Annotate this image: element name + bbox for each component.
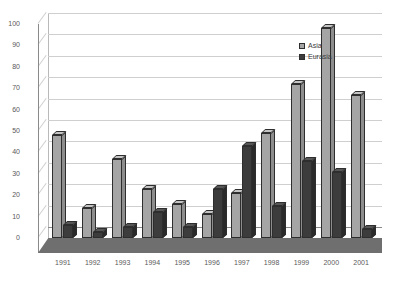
bar-side [312, 157, 316, 238]
bar-face [291, 84, 301, 238]
legend-swatch-eurasia-icon [299, 54, 305, 60]
bar-side [223, 185, 227, 238]
bar-group-1995 [172, 24, 193, 238]
bar-asia-1991 [52, 135, 62, 238]
bar-eurasia-1997 [242, 146, 252, 238]
x-axis-labels: 1991199219931994199519961997199819992000… [38, 258, 382, 272]
bar-eurasia-2001 [362, 229, 372, 238]
bar-face [202, 214, 212, 238]
y-tick-label-20: 20 [0, 191, 20, 198]
bar-eurasia-1995 [183, 227, 193, 238]
chart-floor-surface [38, 238, 382, 253]
x-tick-label-1993: 1993 [106, 258, 139, 267]
bar-asia-1993 [112, 159, 122, 238]
x-tick-label-1994: 1994 [136, 258, 169, 267]
bar-face [172, 204, 182, 238]
bar-eurasia-1994 [153, 212, 163, 238]
bar-asia-1997 [231, 193, 241, 238]
x-tick-label-1998: 1998 [255, 258, 288, 267]
bar-asia-1999 [291, 84, 301, 238]
y-tick-label-90: 90 [0, 41, 20, 48]
bar-face [231, 193, 241, 238]
bar-group-2001 [351, 24, 372, 238]
chart-floor [38, 238, 382, 253]
legend-label-eurasia: Eurasia [308, 51, 332, 62]
y-tick-label-80: 80 [0, 63, 20, 70]
bar-face [351, 95, 361, 238]
bar-group-1996 [202, 24, 223, 238]
bar-face [272, 206, 282, 238]
bar-eurasia-1998 [272, 206, 282, 238]
y-tick-label-40: 40 [0, 148, 20, 155]
bar-eurasia-1991 [63, 225, 73, 238]
bar-face [261, 133, 271, 238]
bar-face [142, 189, 152, 238]
bar-asia-1996 [202, 214, 212, 238]
bar-group-1991 [52, 24, 73, 238]
bar-face [123, 227, 133, 238]
bar-face [302, 161, 312, 238]
bar-chart: 0102030405060708090100 19911992199319941… [0, 0, 396, 282]
bar-asia-1994 [142, 189, 152, 238]
x-tick-label-1991: 1991 [46, 258, 79, 267]
bar-asia-2001 [351, 95, 361, 238]
bar-side [163, 209, 167, 238]
legend-swatch-asia-icon [299, 43, 305, 49]
bar-eurasia-2000 [332, 172, 342, 238]
bar-face [82, 208, 92, 238]
x-tick-label-1995: 1995 [166, 258, 199, 267]
bar-group-1993 [112, 24, 133, 238]
bar-face [242, 146, 252, 238]
legend-item-asia[interactable]: Asia [299, 40, 332, 51]
bar-face [183, 227, 193, 238]
bar-eurasia-1999 [302, 161, 312, 238]
y-tick-label-100: 100 [0, 20, 20, 27]
y-tick-label-10: 10 [0, 213, 20, 220]
bar-asia-1992 [82, 208, 92, 238]
bar-group-1997 [231, 24, 252, 238]
bar-side [282, 202, 286, 238]
bar-asia-1995 [172, 204, 182, 238]
legend-label-asia: Asia [308, 40, 322, 51]
x-tick-label-1999: 1999 [285, 258, 318, 267]
chart-legend: AsiaEurasia [299, 40, 332, 62]
y-tick-label-0: 0 [0, 234, 20, 241]
y-tick-label-30: 30 [0, 170, 20, 177]
x-tick-label-1997: 1997 [225, 258, 258, 267]
x-tick-label-1992: 1992 [76, 258, 109, 267]
bar-asia-1998 [261, 133, 271, 238]
y-tick-label-60: 60 [0, 106, 20, 113]
bar-face [332, 172, 342, 238]
bar-eurasia-1996 [213, 189, 223, 238]
bar-eurasia-1993 [123, 227, 133, 238]
y-tick-label-70: 70 [0, 84, 20, 91]
x-tick-label-2001: 2001 [345, 258, 378, 267]
bar-side [252, 142, 256, 238]
bar-face [213, 189, 223, 238]
x-tick-label-2000: 2000 [315, 258, 348, 267]
bar-group-1998 [261, 24, 282, 238]
bar-face [112, 159, 122, 238]
bar-group-1994 [142, 24, 163, 238]
bar-face [153, 212, 163, 238]
y-tick-label-50: 50 [0, 127, 20, 134]
bar-side [361, 91, 365, 238]
legend-item-eurasia[interactable]: Eurasia [299, 51, 332, 62]
bar-side [342, 168, 346, 238]
x-tick-label-1996: 1996 [196, 258, 229, 267]
bar-face [52, 135, 62, 238]
bar-face [362, 229, 372, 238]
bar-group-1992 [82, 24, 103, 238]
bar-face [63, 225, 73, 238]
